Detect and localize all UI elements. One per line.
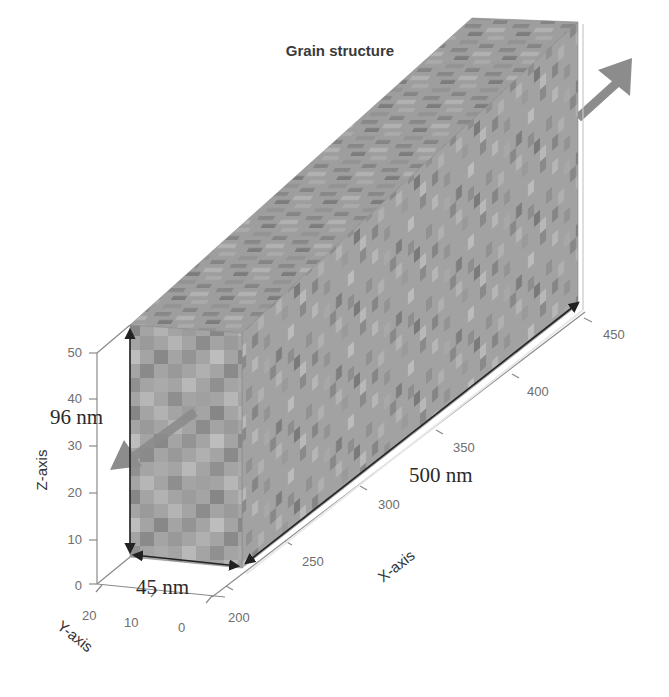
y-tick-10: 10 xyxy=(124,615,138,630)
z-axis-label: Z-axis xyxy=(33,450,50,491)
x-axis-label: X-axis xyxy=(374,546,417,585)
y-axis: 20 10 0 Y-axis xyxy=(54,557,225,655)
x-tick-250: 250 xyxy=(302,554,324,569)
z-tick-40: 40 xyxy=(68,391,82,406)
z-tick-50: 50 xyxy=(68,345,82,360)
x-tick-400: 400 xyxy=(527,384,549,399)
x-tick-450: 450 xyxy=(603,327,625,342)
y-tick-0: 0 xyxy=(178,620,185,635)
height-dimension-label: 96 nm xyxy=(50,405,103,429)
x-tick-300: 300 xyxy=(378,497,400,512)
length-dimension-label: 500 nm xyxy=(409,463,473,487)
grain-structure-figure: Grain structure 50 40 30 20 10 0 Z-axis … xyxy=(0,0,669,697)
z-tick-0: 0 xyxy=(75,578,82,593)
back-out-arrow-icon xyxy=(578,58,632,118)
x-tick-200: 200 xyxy=(228,610,250,625)
y-tick-20: 20 xyxy=(82,608,96,623)
x-tick-350: 350 xyxy=(453,440,475,455)
z-tick-30: 30 xyxy=(68,438,82,453)
chart-title: Grain structure xyxy=(286,42,394,59)
grain-box xyxy=(130,18,583,574)
z-tick-10: 10 xyxy=(68,532,82,547)
width-dimension-label: 45 nm xyxy=(136,575,189,599)
z-tick-20: 20 xyxy=(68,485,82,500)
